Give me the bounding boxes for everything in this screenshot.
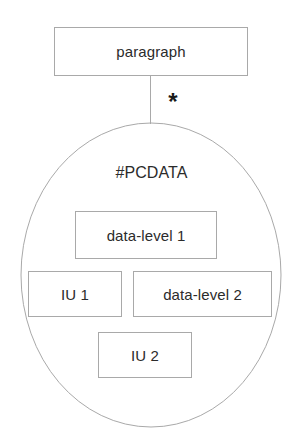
node-iu-2[interactable]: IU 2 [98, 332, 192, 378]
node-data-level-2[interactable]: data-level 2 [133, 271, 272, 317]
diagram-canvas: paragraph * #PCDATA data-level 1 IU 1 da… [0, 0, 303, 444]
node-data-level-2-label: data-level 2 [163, 287, 242, 302]
node-data-level-1[interactable]: data-level 1 [75, 211, 217, 259]
node-iu-1[interactable]: IU 1 [28, 271, 122, 317]
node-iu-1-label: IU 1 [61, 287, 89, 302]
pcdata-group-label: #PCDATA [115, 164, 187, 181]
pcdata-group-label-wrapper: #PCDATA [0, 164, 303, 182]
node-paragraph[interactable]: paragraph [54, 27, 248, 76]
multiplicity-asterisk: * [162, 90, 184, 114]
node-paragraph-label: paragraph [116, 44, 185, 59]
node-data-level-1-label: data-level 1 [107, 228, 186, 243]
node-iu-2-label: IU 2 [131, 348, 159, 363]
